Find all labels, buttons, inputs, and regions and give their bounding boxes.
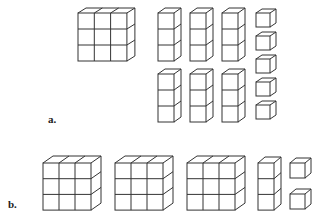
label-part-b: b.	[8, 198, 17, 210]
unit-a-4	[256, 78, 276, 96]
flat-a-1	[78, 8, 135, 61]
base-blocks-figure	[0, 0, 330, 224]
flat-b-3	[187, 156, 245, 210]
flat-b-1	[43, 156, 101, 210]
rod-a-2	[190, 8, 213, 61]
rod-a-1	[158, 8, 181, 61]
label-part-a: a.	[48, 113, 56, 125]
unit-b-1	[290, 158, 311, 178]
unit-a-5	[256, 101, 276, 119]
unit-b-2	[290, 189, 311, 209]
unit-a-2	[256, 32, 276, 50]
flat-b-2	[115, 156, 173, 210]
rod-a-5	[190, 69, 213, 122]
rod-a-3	[222, 8, 245, 61]
rod-a-6	[222, 69, 245, 122]
rod-b-1	[258, 157, 281, 210]
unit-a-1	[256, 9, 276, 27]
unit-a-3	[256, 55, 276, 73]
rod-a-4	[158, 69, 181, 122]
